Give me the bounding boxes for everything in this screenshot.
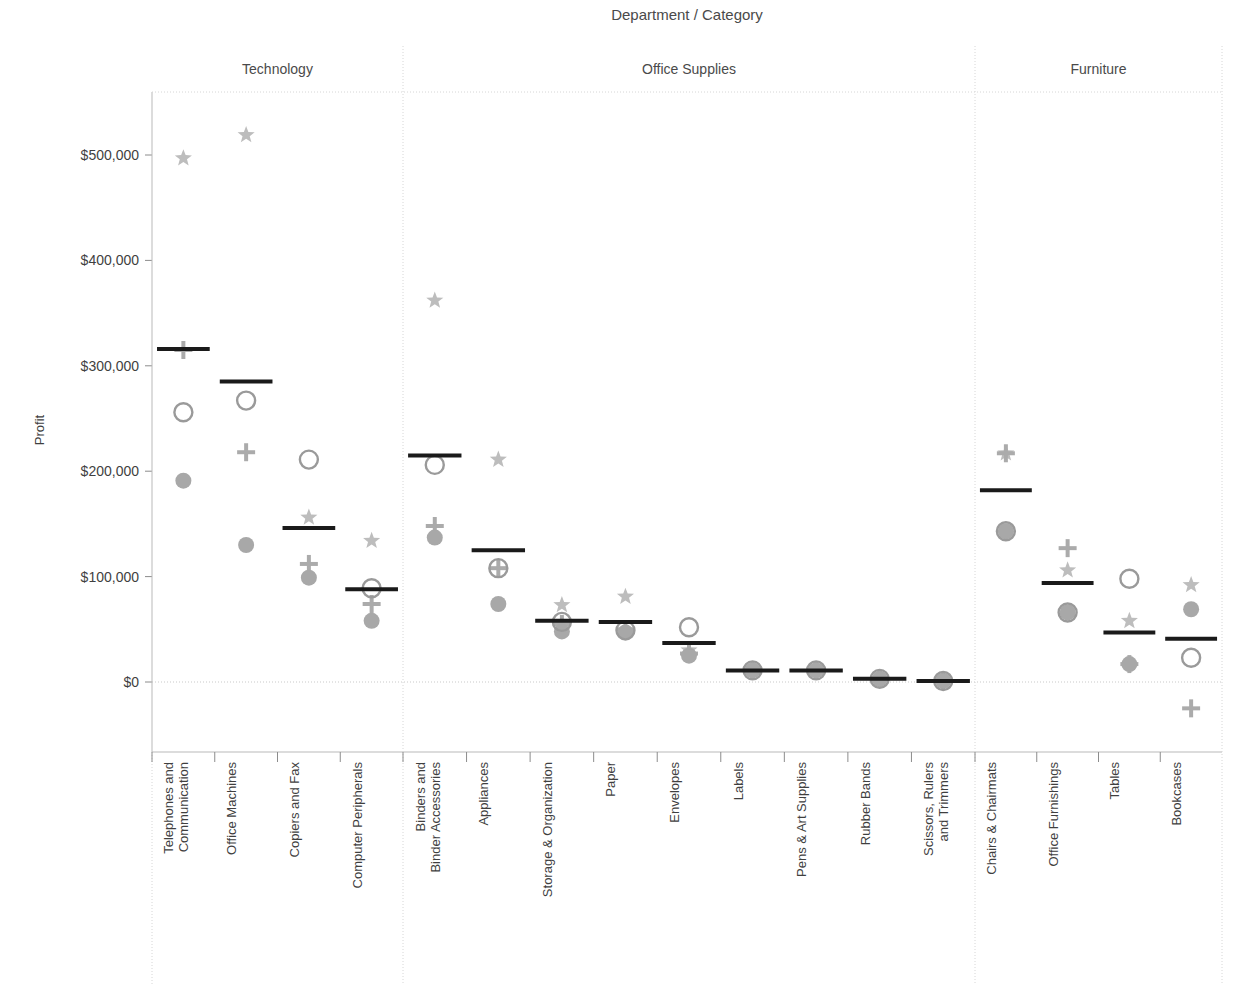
filled-circle-marker[interactable] — [301, 570, 317, 586]
filled-circle-marker[interactable] — [490, 596, 506, 612]
plus-marker[interactable] — [997, 444, 1015, 462]
x-axis-category-label: Bookcases — [1169, 762, 1184, 826]
filled-circle-marker[interactable] — [1183, 601, 1199, 617]
filled-circle-marker[interactable] — [175, 473, 191, 489]
x-axis-category-label: Office Machines — [224, 762, 239, 855]
y-axis-tick-label: $0 — [123, 674, 139, 690]
profit-by-category-chart: $500,000$400,000$300,000$200,000$100,000… — [0, 0, 1254, 997]
panel-header-technology: Technology — [242, 61, 313, 77]
open-circle-marker[interactable] — [237, 392, 255, 410]
y-axis-tick-label: $500,000 — [81, 147, 140, 163]
filled-circle-marker[interactable] — [681, 648, 697, 664]
x-axis-category-label: Paper — [603, 761, 618, 796]
x-axis-category-label: Rubber Bands — [858, 762, 873, 846]
plus-marker[interactable] — [1182, 699, 1200, 717]
x-axis-category-label: Copiers and Fax — [287, 762, 302, 858]
star-marker[interactable] — [490, 451, 507, 467]
chart-canvas: $500,000$400,000$300,000$200,000$100,000… — [0, 0, 1254, 997]
x-axis-category-label: Computer Peripherals — [350, 762, 365, 889]
star-marker[interactable] — [1121, 612, 1138, 628]
x-axis-category-label: Pens & Art Supplies — [794, 762, 809, 877]
open-circle-marker[interactable] — [300, 451, 318, 469]
star-marker[interactable] — [1059, 561, 1076, 577]
open-circle-marker[interactable] — [174, 403, 192, 421]
y-axis-tick-label: $300,000 — [81, 358, 140, 374]
x-axis-category-label: Envelopes — [667, 762, 682, 823]
star-marker[interactable] — [175, 149, 192, 165]
panel-header-office-supplies: Office Supplies — [642, 61, 736, 77]
y-axis-title: Profit — [32, 414, 47, 445]
star-marker[interactable] — [363, 532, 380, 548]
x-axis-category-label: Appliances — [476, 762, 491, 826]
star-marker[interactable] — [617, 588, 634, 604]
star-marker[interactable] — [238, 126, 255, 142]
x-axis-category-label: Labels — [731, 762, 746, 801]
y-axis-tick-label: $400,000 — [81, 252, 140, 268]
open-circle-marker[interactable] — [426, 456, 444, 474]
y-axis-tick-label: $100,000 — [81, 569, 140, 585]
chart-title: Department / Category — [611, 6, 763, 23]
x-axis-category-label: Office Furnishings — [1046, 762, 1061, 867]
plus-marker[interactable] — [1059, 539, 1077, 557]
plus-marker[interactable] — [237, 443, 255, 461]
filled-circle-marker[interactable] — [238, 537, 254, 553]
filled-circle-marker[interactable] — [364, 613, 380, 629]
open-circle-marker[interactable] — [680, 618, 698, 636]
filled-circle-marker[interactable] — [1121, 656, 1137, 672]
star-marker[interactable] — [1183, 576, 1200, 592]
x-axis-category-label: Tables — [1107, 762, 1122, 800]
x-axis-category-label: Telephones and — [161, 762, 176, 854]
x-axis-category-label: Communication — [176, 762, 191, 852]
x-axis-category-label: and Trimmers — [936, 762, 951, 842]
x-axis-category-label: Binder Accessories — [428, 762, 443, 873]
panel-header-furniture: Furniture — [1070, 61, 1126, 77]
x-axis-category-label: Binders and — [413, 762, 428, 831]
x-axis-category-label: Chairs & Chairmats — [984, 762, 999, 875]
x-axis-category-label: Scissors, Rulers — [921, 762, 936, 856]
open-circle-marker[interactable] — [1182, 649, 1200, 667]
y-axis-tick-label: $200,000 — [81, 463, 140, 479]
open-circle-marker[interactable] — [1120, 570, 1138, 588]
filled-circle-marker[interactable] — [427, 530, 443, 546]
star-marker[interactable] — [553, 596, 570, 612]
star-marker[interactable] — [426, 291, 443, 307]
star-marker[interactable] — [300, 509, 317, 525]
x-axis-category-label: Storage & Organization — [540, 762, 555, 897]
